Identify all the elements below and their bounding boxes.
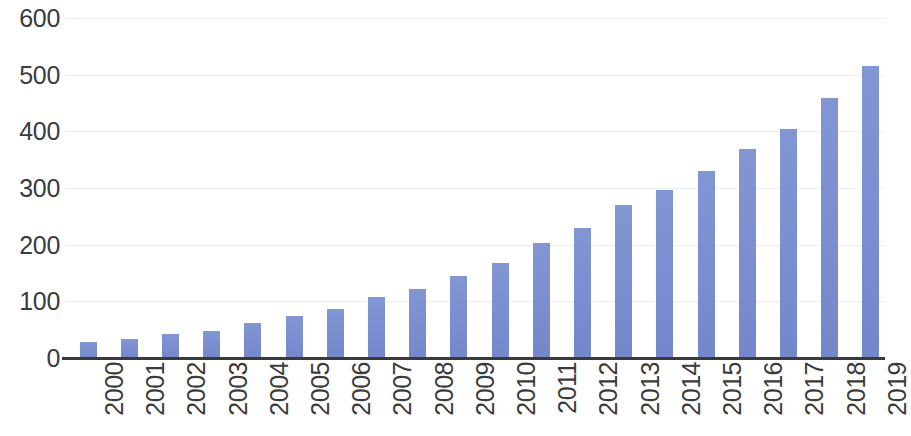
bar bbox=[615, 205, 632, 358]
x-tick-label: 2012 bbox=[595, 362, 621, 436]
x-axis-line bbox=[62, 357, 885, 360]
x-tick-label: 2019 bbox=[884, 362, 910, 436]
x-tick-label: 2005 bbox=[307, 362, 333, 436]
bar bbox=[244, 323, 261, 358]
bar bbox=[203, 331, 220, 358]
bars-layer bbox=[65, 18, 885, 358]
y-tick-label: 500 bbox=[2, 63, 60, 88]
y-tick-label: 200 bbox=[2, 233, 60, 258]
x-tick-label: 2003 bbox=[225, 362, 251, 436]
x-axis-tick-labels: 2000200120022003200420052006200720082009… bbox=[65, 362, 885, 436]
x-tick-label: 2011 bbox=[554, 362, 580, 436]
bar bbox=[368, 297, 385, 358]
bar bbox=[80, 342, 97, 358]
bar bbox=[327, 309, 344, 358]
y-axis-tick-labels: 0100200300400500600 bbox=[0, 0, 60, 436]
y-tick-label: 100 bbox=[2, 289, 60, 314]
x-tick-label: 2001 bbox=[142, 362, 168, 436]
x-tick-label: 2017 bbox=[801, 362, 827, 436]
bar bbox=[286, 316, 303, 358]
y-tick-label: 300 bbox=[2, 176, 60, 201]
bar bbox=[656, 190, 673, 358]
bar bbox=[409, 289, 426, 358]
bar bbox=[121, 339, 138, 358]
bar bbox=[450, 276, 467, 358]
bar bbox=[533, 243, 550, 358]
bar bbox=[862, 66, 879, 358]
x-tick-label: 2018 bbox=[843, 362, 869, 436]
bar bbox=[821, 98, 838, 358]
x-tick-label: 2013 bbox=[637, 362, 663, 436]
y-tick-label: 0 bbox=[2, 346, 60, 371]
x-tick-label: 2008 bbox=[431, 362, 457, 436]
plot-area bbox=[65, 18, 885, 358]
bar bbox=[698, 171, 715, 358]
x-tick-label: 2007 bbox=[389, 362, 415, 436]
bar bbox=[574, 228, 591, 358]
bar bbox=[492, 263, 509, 358]
x-tick-label: 2010 bbox=[513, 362, 539, 436]
x-tick-label: 2002 bbox=[183, 362, 209, 436]
y-tick-label: 400 bbox=[2, 119, 60, 144]
bar bbox=[739, 149, 756, 358]
x-tick-label: 2014 bbox=[678, 362, 704, 436]
x-tick-label: 2015 bbox=[719, 362, 745, 436]
bar bbox=[780, 129, 797, 358]
bar bbox=[162, 334, 179, 358]
x-tick-label: 2006 bbox=[348, 362, 374, 436]
y-tick-label: 600 bbox=[2, 6, 60, 31]
x-tick-label: 2000 bbox=[101, 362, 127, 436]
x-tick-label: 2009 bbox=[472, 362, 498, 436]
x-tick-label: 2016 bbox=[760, 362, 786, 436]
x-tick-label: 2004 bbox=[266, 362, 292, 436]
